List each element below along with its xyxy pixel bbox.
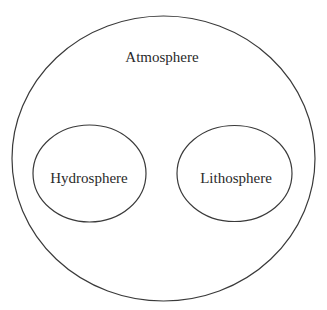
lithosphere-label: Lithosphere [200, 170, 272, 186]
spheres-diagram: Atmosphere Hydrosphere Lithosphere [0, 0, 327, 310]
atmosphere-label: Atmosphere [125, 49, 199, 65]
hydrosphere-label: Hydrosphere [50, 170, 128, 186]
